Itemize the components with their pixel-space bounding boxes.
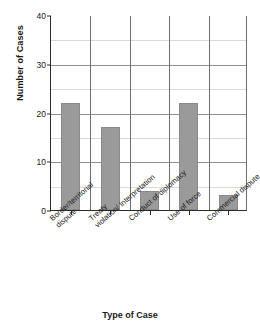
bar-chart: Number of Cases 010203040 Type of Case B… — [0, 0, 260, 328]
x-tick-mark — [150, 210, 151, 215]
y-tick-label: 40 — [37, 11, 46, 21]
x-axis-title: Type of Case — [0, 310, 260, 320]
minor-gridline — [51, 40, 246, 41]
y-tick-mark — [47, 162, 51, 163]
y-tick-label: 10 — [37, 157, 46, 167]
minor-gridline — [51, 89, 246, 90]
y-tick-label: 20 — [37, 109, 46, 119]
y-axis-title: Number of Cases — [15, 8, 25, 118]
gridline — [51, 65, 246, 66]
y-tick-mark — [47, 211, 51, 212]
category-separator — [90, 16, 91, 210]
y-tick-label: 30 — [37, 60, 46, 70]
gridline — [51, 114, 246, 115]
minor-gridline — [51, 138, 246, 139]
y-tick-label: 0 — [41, 206, 46, 216]
x-tick-mark — [189, 210, 190, 215]
category-separator — [209, 16, 210, 210]
y-tick-mark — [47, 113, 51, 114]
gridline — [51, 162, 246, 163]
y-tick-mark — [47, 64, 51, 65]
y-tick-mark — [47, 16, 51, 17]
x-tick-mark — [228, 210, 229, 215]
